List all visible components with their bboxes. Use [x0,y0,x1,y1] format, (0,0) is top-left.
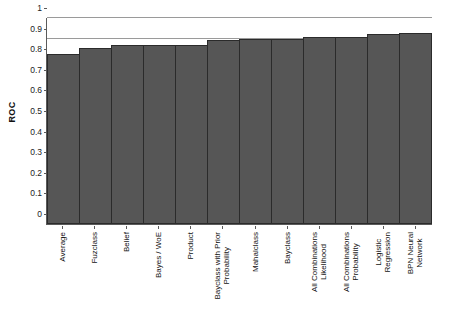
x-axis-tick: All CombinationsLikelihood [303,226,335,310]
bar [303,37,336,224]
x-axis-tick: Average [46,226,78,310]
bar [47,54,80,224]
x-axis-label: Bayclass with PriorProbability [213,232,231,300]
bar [111,45,144,224]
bar [175,45,208,224]
x-axis-label: Average [58,232,67,262]
x-axis-label: BPN NeuralNetwork [406,232,424,274]
x-axis-label: LogisticRegression [374,232,392,272]
x-axis-tick: Bayclass with PriorProbability [206,226,238,310]
y-tick-label: 0 [3,209,47,219]
x-axis-label: Fuzclass [90,232,99,264]
y-tick-label: 0.7 [3,65,47,75]
x-axis-tick: Belief [110,226,142,310]
bar [271,39,304,224]
plot-area: 10.90.80.70.60.50.40.30.20.10 [46,18,432,225]
y-tick-label: 1 [3,3,47,13]
y-tick-label: 0.9 [3,24,47,34]
y-tick-label: 0.5 [3,106,47,116]
roc-bar-chart: ROC 10.90.80.70.60.50.40.30.20.10 Averag… [0,0,449,310]
y-tick-label: 0.6 [3,85,47,95]
y-tick-label: 0.8 [3,44,47,54]
x-axis-label: All CombinationsLikelihood [310,232,328,292]
x-axis-tick: Product [174,226,206,310]
x-axis-label: Bayes / WoE [154,232,163,278]
x-axis-label: Mahalclass [250,232,259,272]
bar [239,39,272,224]
x-axis-labels: AverageFuzclassBeliefBayes / WoEProductB… [46,226,431,310]
x-axis-tick: BPN NeuralNetwork [399,226,431,310]
bar [79,48,112,224]
y-tick-label: 0.4 [3,127,47,137]
x-axis-tick: LogisticRegression [367,226,399,310]
x-axis-tick: Bayes / WoE [142,226,174,310]
y-tick-label: 0.1 [3,188,47,198]
x-axis-label: Product [186,232,195,260]
x-axis-label: All CombinationsProbability [342,232,360,292]
bars-container [47,18,432,224]
bar [399,33,432,224]
y-tick-label: 0.3 [3,147,47,157]
bar [207,40,240,224]
bar [335,37,368,224]
x-axis-tick: Mahalclass [238,226,270,310]
x-axis-tick: Fuzclass [78,226,110,310]
y-tick-label: 0.2 [3,168,47,178]
x-axis-tick: All CombinationsProbability [335,226,367,310]
bar [367,34,400,224]
bar [143,45,176,224]
x-axis-label: Belief [122,232,131,252]
x-axis-tick: Bayclass [271,226,303,310]
x-axis-label: Bayclass [282,232,291,264]
